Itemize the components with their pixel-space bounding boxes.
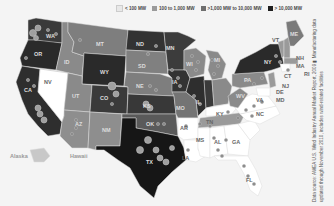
- svg-text:RI: RI: [304, 71, 310, 77]
- svg-text:DE: DE: [276, 89, 284, 95]
- svg-text:KS: KS: [143, 103, 151, 109]
- source-note: Data source: AWEA U.S. Wind Industry Ann…: [312, 4, 332, 202]
- svg-text:NH: NH: [296, 55, 304, 61]
- legend-label: > 10,000 MW: [275, 6, 302, 11]
- svg-text:WY: WY: [100, 69, 109, 75]
- source-note-text: Data source: AWEA U.S. Wind Industry Ann…: [312, 4, 332, 202]
- svg-text:GA: GA: [232, 139, 240, 145]
- svg-text:UT: UT: [72, 93, 80, 99]
- legend-label: 100 to 1,000 MW: [159, 6, 195, 11]
- svg-text:MO: MO: [176, 105, 186, 111]
- legend: < 100 MW 100 to 1,000 MW >1,000 MW to 10…: [116, 5, 302, 12]
- legend-item-100-1000: 100 to 1,000 MW: [152, 6, 195, 11]
- svg-text:ME: ME: [290, 31, 299, 37]
- state-co[interactable]: [90, 85, 128, 114]
- svg-text:MT: MT: [96, 41, 105, 47]
- svg-text:MA: MA: [296, 63, 305, 69]
- svg-text:NM: NM: [102, 127, 111, 133]
- svg-text:ND: ND: [136, 41, 144, 47]
- legend-label: >1,000 MW to 10,000 MW: [208, 6, 262, 11]
- svg-text:IL: IL: [196, 99, 202, 105]
- svg-text:OK: OK: [146, 121, 154, 127]
- svg-text:NY: NY: [264, 59, 272, 65]
- svg-text:TX: TX: [146, 159, 153, 165]
- state-ms[interactable]: [198, 128, 210, 158]
- svg-text:NE: NE: [136, 83, 144, 89]
- svg-text:OR: OR: [34, 51, 42, 57]
- legend-swatch: [152, 6, 157, 11]
- svg-text:AL: AL: [214, 139, 222, 145]
- svg-text:Hawaii: Hawaii: [70, 153, 88, 159]
- svg-text:WV: WV: [236, 93, 245, 99]
- state-ks[interactable]: [127, 94, 176, 114]
- legend-swatch: [201, 6, 206, 11]
- svg-text:LA: LA: [182, 155, 189, 161]
- svg-text:VA: VA: [256, 97, 263, 103]
- legend-swatch: [268, 6, 273, 11]
- svg-text:TN: TN: [206, 119, 213, 125]
- legend-item-lt100: < 100 MW: [116, 5, 146, 12]
- svg-text:NV: NV: [44, 79, 52, 85]
- legend-item-1000-10000: >1,000 MW to 10,000 MW: [201, 6, 262, 11]
- svg-text:IA: IA: [172, 79, 178, 85]
- svg-text:VT: VT: [272, 37, 280, 43]
- legend-swatch: [116, 5, 123, 12]
- svg-text:MD: MD: [276, 97, 285, 103]
- legend-item-gt10000: > 10,000 MW: [268, 6, 302, 11]
- svg-text:NC: NC: [256, 111, 264, 117]
- svg-text:AZ: AZ: [75, 121, 83, 127]
- svg-text:FL: FL: [246, 177, 253, 183]
- svg-text:KY: KY: [216, 111, 224, 117]
- svg-text:ID: ID: [64, 59, 70, 65]
- svg-text:AR: AR: [180, 125, 188, 131]
- svg-text:SD: SD: [138, 63, 146, 69]
- svg-text:CO: CO: [100, 95, 109, 101]
- state-nd[interactable]: [126, 30, 166, 52]
- us-wind-map: WA OR CA NV ID MT WY UT AZ CO NM ND SD N…: [0, 0, 310, 206]
- svg-text:MN: MN: [166, 45, 175, 51]
- legend-label: < 100 MW: [125, 6, 146, 11]
- state-de-md[interactable]: [256, 88, 270, 96]
- svg-text:CT: CT: [284, 73, 292, 79]
- svg-text:Alaska: Alaska: [10, 153, 29, 159]
- svg-text:WI: WI: [186, 61, 193, 67]
- svg-text:MS: MS: [196, 137, 205, 143]
- svg-text:WA: WA: [46, 33, 55, 39]
- svg-text:MI: MI: [214, 57, 221, 63]
- svg-text:CA: CA: [24, 87, 32, 93]
- svg-text:PA: PA: [244, 77, 251, 83]
